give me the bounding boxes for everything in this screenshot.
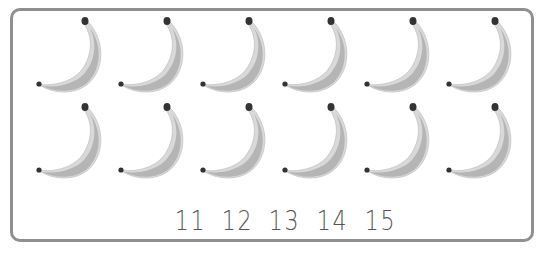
answer-choice-14[interactable]: 14	[317, 206, 349, 236]
banana-tip	[200, 167, 205, 172]
banana-icon	[364, 17, 428, 92]
banana-tip	[364, 81, 369, 86]
banana-icon	[446, 17, 510, 92]
banana-stem	[246, 17, 253, 25]
banana-tip	[282, 167, 287, 172]
answer-choice-12[interactable]: 12	[222, 206, 254, 236]
banana-stem	[164, 17, 171, 25]
banana-tip	[200, 81, 205, 86]
banana-icon	[36, 103, 100, 178]
banana-stem	[410, 17, 417, 25]
banana-tip	[364, 167, 369, 172]
banana-stem	[82, 103, 89, 111]
banana-icon	[36, 17, 100, 92]
banana-tip	[36, 81, 41, 86]
banana-tip	[446, 81, 451, 86]
banana-stem	[410, 103, 417, 111]
banana-icon	[282, 17, 346, 92]
banana-icon	[200, 103, 264, 178]
banana-tip	[118, 167, 123, 172]
banana-tip	[282, 81, 287, 86]
answer-choice-15[interactable]: 15	[365, 206, 397, 236]
banana-stem	[164, 103, 171, 111]
banana-icon	[200, 17, 264, 92]
answer-choices: 11 12 13 14 15	[0, 206, 546, 242]
banana-icon	[282, 103, 346, 178]
banana-stem	[492, 103, 499, 111]
banana-icon	[118, 17, 182, 92]
banana-icon	[118, 103, 182, 178]
banana-icon	[446, 103, 510, 178]
banana-icon	[364, 103, 428, 178]
banana-stem	[328, 17, 335, 25]
answer-choice-13[interactable]: 13	[269, 206, 301, 236]
banana-stem	[492, 17, 499, 25]
banana-stem	[246, 103, 253, 111]
banana-tip	[118, 81, 123, 86]
answer-choice-11[interactable]: 11	[175, 206, 207, 236]
banana-tip	[36, 167, 41, 172]
banana-tip	[446, 167, 451, 172]
banana-stem	[328, 103, 335, 111]
banana-stem	[82, 17, 89, 25]
